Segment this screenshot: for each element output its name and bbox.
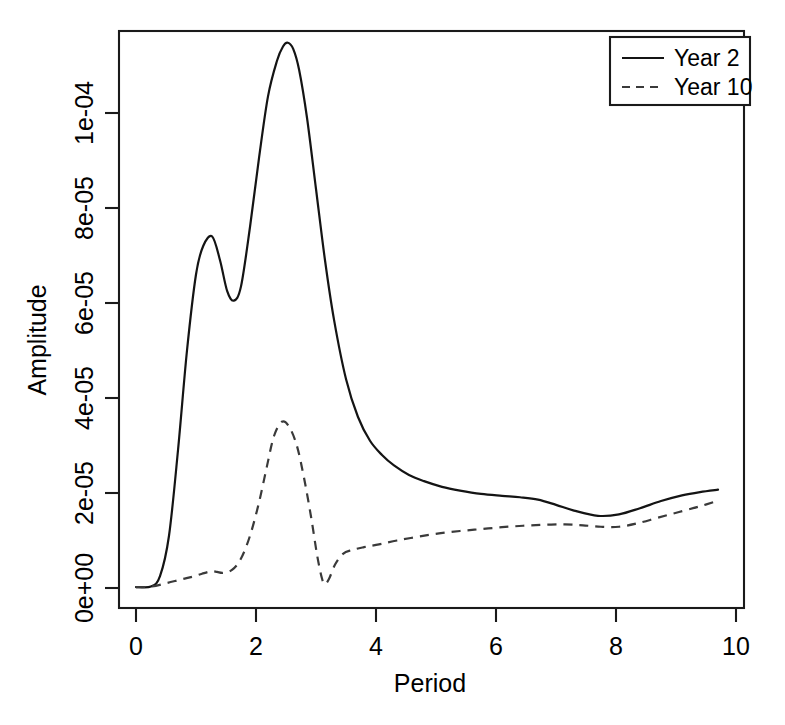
x-axis-ticks bbox=[136, 608, 736, 622]
x-tick-label: 6 bbox=[489, 632, 503, 660]
x-axis-tick-labels: 0 2 4 6 8 10 bbox=[129, 632, 750, 660]
chart-legend[interactable]: Year 2 Year 10 bbox=[610, 37, 752, 105]
amplitude-period-chart: 0 2 4 6 8 10 0e+00 2e-05 4e-05 6e-05 8e-… bbox=[0, 0, 785, 725]
y-tick-label: 2e-05 bbox=[70, 461, 98, 525]
y-axis-title: Amplitude bbox=[23, 284, 51, 395]
series-line-year-10 bbox=[136, 421, 718, 587]
y-tick-label: 4e-05 bbox=[70, 366, 98, 430]
x-tick-label: 4 bbox=[369, 632, 383, 660]
y-axis-ticks bbox=[105, 113, 119, 588]
y-tick-label: 1e-04 bbox=[70, 81, 98, 145]
legend-label-year-2: Year 2 bbox=[674, 45, 740, 71]
y-tick-label: 6e-05 bbox=[70, 271, 98, 335]
x-axis-title: Period bbox=[394, 669, 466, 697]
x-tick-label: 8 bbox=[609, 632, 623, 660]
x-tick-label: 10 bbox=[722, 632, 750, 660]
chart-figure: 0 2 4 6 8 10 0e+00 2e-05 4e-05 6e-05 8e-… bbox=[0, 0, 785, 725]
x-tick-label: 2 bbox=[249, 632, 263, 660]
y-axis-tick-labels: 0e+00 2e-05 4e-05 6e-05 8e-05 1e-04 bbox=[70, 81, 98, 623]
y-tick-label: 0e+00 bbox=[70, 553, 98, 623]
x-tick-label: 0 bbox=[129, 632, 143, 660]
plot-frame bbox=[119, 31, 744, 608]
legend-label-year-10: Year 10 bbox=[674, 74, 752, 100]
series-line-year-2 bbox=[136, 43, 718, 588]
y-tick-label: 8e-05 bbox=[70, 176, 98, 240]
